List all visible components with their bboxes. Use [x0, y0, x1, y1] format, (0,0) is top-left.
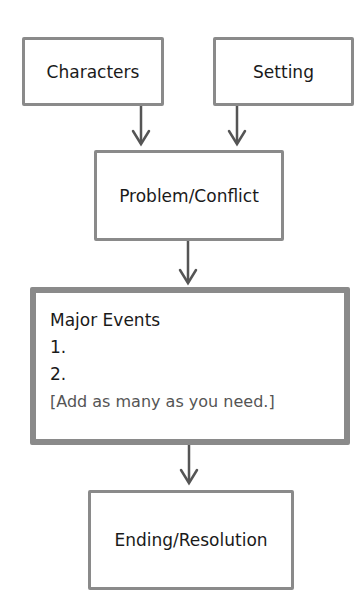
characters-label: Characters [47, 62, 140, 82]
event-1: 1. [50, 334, 66, 361]
setting-box: Setting [213, 37, 354, 106]
event-2: 2. [50, 361, 66, 388]
problem-conflict-label: Problem/Conflict [119, 186, 259, 206]
events-hint: [Add as many as you need.] [50, 388, 275, 415]
major-events-box: Major Events 1. 2. [Add as many as you n… [30, 287, 350, 445]
problem-conflict-box: Problem/Conflict [94, 150, 284, 241]
setting-label: Setting [253, 62, 314, 82]
characters-box: Characters [22, 37, 164, 106]
ending-resolution-label: Ending/Resolution [114, 530, 267, 550]
ending-resolution-box: Ending/Resolution [88, 490, 294, 590]
major-events-title: Major Events [50, 307, 160, 334]
